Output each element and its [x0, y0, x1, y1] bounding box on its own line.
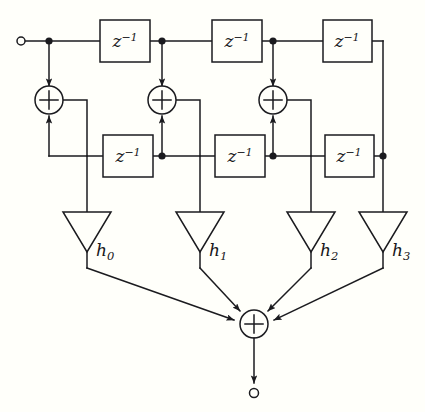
- wire-h0-to-output-adder: [87, 268, 234, 320]
- filter-diagram-canvas: z−1 z−1 z−1 z−1 z−1 z−1 h0 h1: [0, 0, 425, 412]
- signal-flow-graph: z−1 z−1 z−1 z−1 z−1 z−1 h0 h1: [0, 0, 425, 412]
- gain-label-h0: h0: [96, 240, 114, 263]
- gain-label-h3: h3: [392, 240, 410, 263]
- gain-label-h2: h2: [320, 240, 338, 263]
- wire-adder2-out: [287, 100, 311, 156]
- wire-adder1-out: [176, 100, 200, 156]
- gain-labels: h0 h1 h2 h3: [96, 240, 410, 263]
- gain-label-h1: h1: [209, 240, 227, 263]
- output-terminal-circle[interactable]: [250, 389, 259, 398]
- input-terminal-circle[interactable]: [17, 37, 25, 45]
- wire-h3-to-output-adder: [274, 268, 383, 320]
- wire-adder0-out: [63, 100, 87, 156]
- wire-h1-to-output-adder: [200, 268, 240, 311]
- wire-h2-to-output-adder: [268, 268, 311, 311]
